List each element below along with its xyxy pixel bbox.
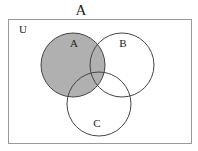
universe-label: U [19, 23, 27, 35]
set-c-label: C [93, 117, 100, 129]
set-a-label: A [70, 37, 78, 49]
venn-diagram: U A B C [0, 0, 198, 151]
set-b-label: B [119, 37, 126, 49]
